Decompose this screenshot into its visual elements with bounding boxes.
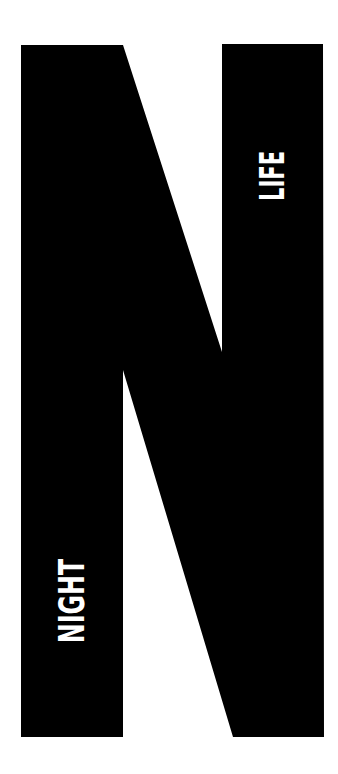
poster: LIFE NIGHT [0, 0, 338, 774]
word-night: NIGHT [54, 559, 90, 643]
letter-n-shape [0, 0, 338, 774]
word-life: LIFE [255, 151, 289, 201]
